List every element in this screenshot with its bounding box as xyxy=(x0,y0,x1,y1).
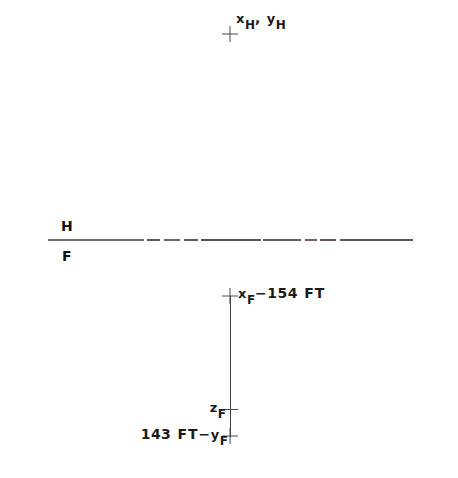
helicopter-x-variable: x xyxy=(236,11,245,26)
mid-datum-subscript: F xyxy=(218,407,226,421)
reference-line-segment xyxy=(147,239,160,241)
cross-horizontal-bar xyxy=(222,34,238,35)
top-datum-operator: − xyxy=(255,285,267,301)
reference-line-segment xyxy=(340,239,413,241)
top-datum-subscript: F xyxy=(247,293,255,307)
bottom-datum-operator: − xyxy=(199,426,211,442)
reference-line-segment xyxy=(184,239,198,241)
top-datum-variable: x xyxy=(238,286,247,301)
reference-line-segment xyxy=(48,239,144,241)
horizontal-reference-line xyxy=(0,239,458,242)
helicopter-x-subscript: H xyxy=(245,18,255,32)
figure-canvas: xH, yH H F xF−154 FT zF 143 FT−yF xyxy=(0,0,458,478)
top-datum-unit: FT xyxy=(304,285,325,301)
vertical-datum-line xyxy=(230,296,231,437)
bottom-datum-subscript: F xyxy=(220,434,228,448)
cross-vertical-bar xyxy=(230,26,231,42)
reference-line-label-f: F xyxy=(62,249,72,263)
reference-line-segment xyxy=(305,239,317,241)
reference-line-segment xyxy=(263,239,301,241)
mid-datum-label: zF xyxy=(210,399,226,418)
bottom-datum-label: 143 FT−yF xyxy=(141,426,228,445)
bottom-datum-unit: FT xyxy=(177,426,198,442)
top-datum-value: 154 xyxy=(267,285,298,301)
bottom-datum-value: 143 xyxy=(141,426,172,442)
reference-line-segment xyxy=(164,239,180,241)
helicopter-y-subscript: H xyxy=(276,18,286,32)
helicopter-coordinates-label: xH, yH xyxy=(236,10,286,29)
top-datum-label: xF−154 FT xyxy=(238,285,325,304)
helicopter-label-comma: , xyxy=(255,10,261,26)
reference-line-label-h: H xyxy=(61,219,73,233)
bottom-datum-variable: y xyxy=(211,427,220,442)
reference-line-segment xyxy=(201,239,261,241)
reference-line-segment xyxy=(320,239,336,241)
mid-datum-variable: z xyxy=(210,400,218,415)
helicopter-y-variable: y xyxy=(267,11,276,26)
